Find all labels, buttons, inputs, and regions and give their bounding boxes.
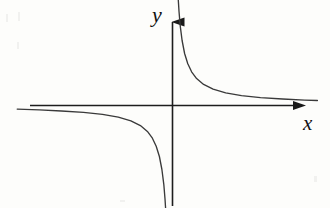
axes-group	[30, 22, 294, 206]
y-axis-label: y	[150, 2, 162, 27]
scan-speckle	[6, 12, 317, 202]
curve-branch-quadrant-3	[17, 109, 166, 208]
x-axis-label: x	[302, 111, 313, 135]
curve-group	[17, 0, 317, 208]
graph-canvas: y x	[0, 0, 330, 208]
curve-branch-quadrant-1	[178, 0, 318, 101]
hyperbola-figure: y x	[0, 0, 330, 208]
